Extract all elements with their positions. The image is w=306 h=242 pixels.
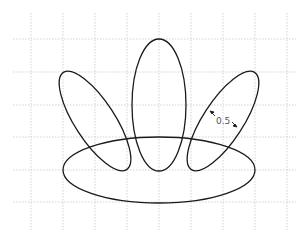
grid (13, 13, 296, 230)
ellipse-diagram: 0.5 (0, 0, 306, 242)
dimension-label: 0.5 (216, 116, 230, 126)
